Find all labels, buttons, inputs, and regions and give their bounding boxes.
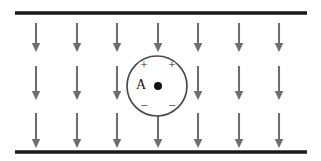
figure-canvas: A ++−− xyxy=(0,0,321,161)
sphere-center-dot xyxy=(154,82,162,90)
field-arrow-head xyxy=(275,139,284,148)
field-arrow-head xyxy=(73,43,82,52)
field-arrow-head xyxy=(275,91,284,100)
field-arrow-head xyxy=(32,43,41,52)
field-arrow-head xyxy=(73,91,82,100)
field-arrow-head xyxy=(154,139,163,148)
electric-field-figure: A ++−− xyxy=(0,0,321,161)
negative-charge-sign: − xyxy=(140,98,147,113)
field-arrow-head xyxy=(235,91,244,100)
field-arrow-head xyxy=(73,139,82,148)
field-arrow-head xyxy=(113,139,122,148)
field-arrow-head xyxy=(113,43,122,52)
sphere-label-A: A xyxy=(136,77,147,92)
field-arrow-head xyxy=(235,139,244,148)
field-arrow-head xyxy=(194,43,203,52)
positive-charge-sign: + xyxy=(140,57,147,72)
polarized-sphere: A ++−− xyxy=(127,56,187,116)
negative-charge-sign: − xyxy=(168,98,175,113)
field-arrow-head xyxy=(32,139,41,148)
field-arrow-head xyxy=(235,43,244,52)
positive-charge-sign: + xyxy=(168,57,175,72)
field-arrow-head xyxy=(194,91,203,100)
field-arrow-head xyxy=(154,43,163,52)
field-arrow-head xyxy=(113,91,122,100)
field-arrow-head xyxy=(32,91,41,100)
field-arrow-head xyxy=(275,43,284,52)
field-arrow-head xyxy=(194,139,203,148)
